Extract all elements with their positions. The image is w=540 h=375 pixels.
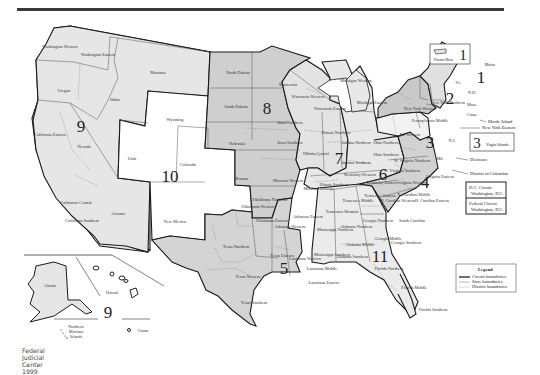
label-texas-southern: Texas Southern: [241, 300, 268, 305]
label-ohio-northern: Ohio Northern: [373, 140, 399, 145]
label-ca-central: California Central: [60, 200, 92, 205]
label-kansas: Kansas: [236, 176, 249, 181]
puerto-rico-label: Puerto Rico: [434, 57, 453, 62]
label-nc-western: N. Carolina Western: [380, 198, 416, 203]
label-idaho: Idaho: [110, 97, 120, 102]
label-new-mexico: New Mexico: [164, 219, 186, 224]
label-nevada: Nevada: [77, 144, 90, 149]
label-new-hampshire: N.H.: [468, 90, 476, 95]
label-alabama-southern: Alabama Southern: [336, 254, 369, 259]
label-wisconsin-western: Wisconsin Western: [292, 94, 326, 99]
label-florida-northern: Florida Northern: [375, 266, 405, 271]
label-wv-northern: W. Virginia Northern: [394, 158, 431, 163]
label-guam: Guam: [138, 328, 149, 333]
label-kentucky-western: Kentucky Western: [344, 172, 377, 177]
circuit-number-11: 11: [372, 247, 388, 266]
label-wisconsin-eastern: Wisconsin Eastern: [314, 106, 347, 111]
dc-circuit-line1: D.C. Circuit: [469, 185, 492, 190]
label-indiana-northern: Indiana Northern: [341, 140, 371, 145]
label-minnesota: Minnesota: [279, 82, 297, 87]
label-missouri-western: Missouri Western: [273, 178, 304, 183]
label-south-dakota: South Dakota: [224, 104, 248, 109]
federal-circuit-line1: Federal Circuit: [469, 201, 497, 206]
circuit-number-1: 1: [477, 68, 486, 87]
label-michigan-eastern: Michigan Eastern: [357, 100, 388, 105]
label-south-carolina: South Carolina: [399, 218, 425, 223]
circuit-number-10: 10: [162, 167, 179, 186]
label-colorado: Colorado: [180, 162, 196, 167]
label-north-dakota: North Dakota: [226, 70, 250, 75]
label-montana: Montana: [150, 70, 165, 75]
circuit-number-4: 4: [421, 173, 430, 192]
puerto-rico-inset: Puerto Rico 1: [430, 44, 470, 64]
label-pa-western: Pa. Western: [400, 132, 421, 137]
label-florida-southern: Florida Southern: [418, 307, 448, 312]
credit-text: Federal Judicial Center 1999: [22, 347, 45, 375]
puerto-rico-circuit: 1: [459, 47, 467, 63]
label-oklahoma-northern: Oklahoma Northern: [253, 197, 288, 202]
label-nc-eastern: N. Carolina Eastern: [415, 198, 450, 203]
callout-district-of-columbia: District of Columbia: [470, 171, 508, 176]
label-virginia-eastern: Virginia Eastern: [426, 174, 455, 179]
label-louisiana-middle: Louisiana Middle: [307, 266, 338, 271]
circuit-number-5: 5: [280, 259, 289, 278]
label-arkansas-eastern: Arkansas Eastern: [293, 214, 324, 219]
callout-delaware: Delaware: [470, 157, 488, 162]
virgin-islands-inset: 3 Virgin Islands: [470, 133, 514, 151]
label-wa-eastern: Washington Eastern: [81, 52, 116, 57]
label-hawaii: Hawaii: [106, 290, 119, 295]
label-wyoming: Wyoming: [167, 117, 185, 122]
label-alabama-northern: Alabama Northern: [340, 224, 373, 229]
label-connecticut: Conn.: [467, 112, 477, 117]
label-pa-middle: Pennsylvania Middle: [412, 118, 448, 123]
label-texas-northern: Texas Northern: [223, 244, 250, 249]
label-arkansas-western: Arkansas Western: [275, 224, 307, 229]
virgin-islands-circuit: 3: [473, 135, 481, 151]
circuit-number-6: 6: [379, 165, 388, 184]
label-new-jersey: N.J.: [449, 138, 456, 143]
label-tennessee-western: Tennessee Western: [326, 209, 359, 214]
label-oregon: Oregon: [58, 88, 72, 93]
label-nc-middle: N. Carolina Middle: [397, 192, 431, 197]
circuit-number-9: 9: [77, 117, 86, 136]
label-alabama-middle: Alabama Middle: [346, 242, 375, 247]
label-ny-western: New York Western: [404, 106, 437, 111]
label-ca-eastern: California Eastern: [34, 132, 66, 137]
label-maine: Maine: [485, 62, 496, 67]
label-massachusetts: Mass.: [467, 102, 477, 107]
label-utah: Utah: [128, 156, 137, 161]
label-georgia-southern: Georgia Southern: [391, 240, 422, 245]
circuit-number-3: 3: [426, 133, 435, 152]
label-vermont: Vt.: [455, 80, 460, 85]
circuit-number-9-inset: 9: [104, 303, 113, 322]
label-iowa-southern: Iowa Southern: [277, 140, 303, 145]
label-nmi-3: Islands: [70, 334, 83, 339]
callout-ny-eastern: New York Eastern: [482, 125, 516, 130]
label-maryland: Md.: [436, 156, 443, 161]
label-indiana-southern: Indiana Southern: [341, 160, 371, 165]
label-illinois-northern: Illinois Northern: [322, 130, 352, 135]
label-nebraska: Nebraska: [229, 141, 245, 146]
label-ohio-southern: Ohio Southern: [373, 152, 399, 157]
circuit-number-7: 7: [335, 149, 344, 168]
label-louisiana-eastern: Louisiana Eastern: [309, 280, 341, 285]
alaska-hawaii-inset: [24, 255, 164, 339]
label-iowa-northern: Iowa Northern: [277, 120, 303, 125]
legend: Legend Circuit boundaries State boundari…: [456, 264, 516, 292]
label-florida-middle: Florida Middle: [401, 285, 427, 290]
label-alaska: Alaska: [44, 283, 56, 288]
label-ca-southern: California Southern: [65, 218, 100, 223]
label-tennessee-middle: Tennessee Middle: [342, 198, 373, 203]
label-arizona: Arizona: [111, 211, 125, 216]
alaska-shape: [28, 262, 92, 322]
label-illinois-central: Illinois Central: [303, 151, 330, 156]
label-oklahoma-western: Oklahoma Western: [242, 204, 276, 209]
legend-item-district: District boundaries: [472, 284, 507, 289]
label-wa-western: Washington Western: [42, 44, 78, 49]
virgin-islands-label: Virgin Islands: [486, 142, 509, 147]
label-wv-southern: W. Virginia Southern: [384, 168, 421, 173]
circuit-number-2: 2: [446, 89, 455, 108]
label-georgia-northern: Georgia Northern: [363, 218, 394, 223]
label-illinois-southern: Illinois Southern: [320, 182, 350, 187]
